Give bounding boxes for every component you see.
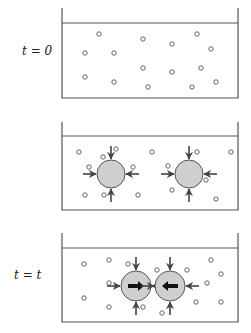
gas-particle (166, 164, 170, 168)
gas-particle (170, 70, 174, 74)
gas-particle (82, 262, 86, 266)
gas-particle (112, 80, 116, 84)
panel-1 (62, 8, 238, 98)
bubble (175, 160, 203, 188)
panel-3-time-label: t = t (14, 268, 41, 282)
panel-3 (62, 233, 238, 322)
container-walls (62, 8, 238, 98)
gas-particle (195, 32, 199, 36)
gas-particle (155, 268, 159, 272)
gas-particle (77, 150, 81, 154)
container-walls (62, 233, 238, 322)
gas-particle (141, 37, 145, 41)
gas-particle (87, 165, 91, 169)
gas-particle (107, 281, 111, 285)
gas-particle (205, 281, 209, 285)
gas-particle (83, 75, 87, 79)
gas-particle (194, 300, 198, 304)
panel-2 (62, 122, 238, 210)
gas-particle (190, 85, 194, 89)
gas-particle (141, 305, 145, 309)
gas-particle (101, 155, 105, 159)
gas-particle (170, 188, 174, 192)
gas-particle (209, 258, 213, 262)
gas-particle (160, 311, 164, 315)
gas-particle (219, 300, 223, 304)
gas-particle (83, 193, 87, 197)
gas-particle (82, 296, 86, 300)
gas-particle (214, 197, 218, 201)
panel-1-time-label: t = 0 (22, 44, 52, 58)
gas-particle (219, 272, 223, 276)
gas-particle (126, 262, 130, 266)
gas-particle (229, 150, 233, 154)
gas-particle (199, 66, 203, 70)
gas-particle (107, 258, 111, 262)
gas-particle (141, 66, 145, 70)
bubble (97, 160, 125, 188)
gas-particle (114, 147, 118, 151)
gas-particle (131, 165, 135, 169)
gas-particle (146, 85, 150, 89)
gas-particle (214, 80, 218, 84)
gas-particle (170, 42, 174, 46)
gas-particle (97, 32, 101, 36)
gas-particle (136, 193, 140, 197)
gas-particle (185, 268, 189, 272)
gas-particle (112, 51, 116, 55)
gas-particle (83, 51, 87, 55)
gas-particle (195, 150, 199, 154)
gas-particle (102, 193, 106, 197)
gas-particle (204, 178, 208, 182)
gas-particle (150, 150, 154, 154)
gas-particle (107, 305, 111, 309)
gas-particle (209, 47, 213, 51)
